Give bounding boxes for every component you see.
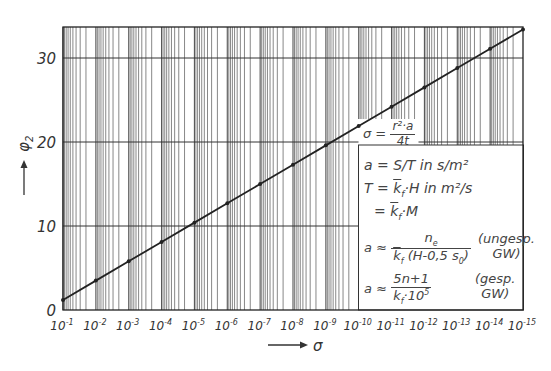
x-tick-label: 10-7 xyxy=(248,318,272,333)
data-point xyxy=(61,298,65,302)
y-tick-label: 20 xyxy=(37,134,56,152)
data-point xyxy=(390,105,394,109)
x-tick-label: 10-15 xyxy=(508,318,536,333)
unconfined-denominator: kf (H-0,5 s0) xyxy=(391,249,471,266)
sigma-fraction: r²·a 4t xyxy=(390,120,415,149)
confined-note-line1: (gesp. xyxy=(475,272,515,287)
data-point xyxy=(324,143,328,147)
unconfined-note-line1: (ungesp. xyxy=(478,232,535,247)
m-definition: = kf·M xyxy=(374,203,418,222)
unconfined-fraction: ne kf (H-0,5 s0) xyxy=(391,231,471,266)
x-tick-label: 10-1 xyxy=(50,318,73,333)
y-tick-label: 0 xyxy=(46,302,56,320)
data-point xyxy=(192,221,196,225)
x-tick-label: 10-10 xyxy=(344,318,372,333)
x-tick-label: 10-6 xyxy=(215,318,238,333)
data-point xyxy=(160,240,164,244)
confined-note: (gesp. GW) xyxy=(475,272,515,302)
y-tick-label: 30 xyxy=(37,50,56,68)
x-arrowhead-icon xyxy=(300,342,308,349)
sigma-denominator: 4t xyxy=(390,135,415,149)
y-axis-label: φ2 xyxy=(15,136,35,195)
x-tick-label: 10-5 xyxy=(182,318,205,333)
confined-numerator: 5n+1 xyxy=(391,272,431,288)
x-label-text: σ xyxy=(313,337,323,355)
data-point xyxy=(291,163,295,167)
sigma-numerator: r²·a xyxy=(390,120,415,135)
x-tick-label: 10-13 xyxy=(442,318,470,333)
sigma-formula: σ = r²·a 4t xyxy=(363,120,415,149)
x-axis-label: σ xyxy=(268,337,323,355)
x-tick-label: 10-12 xyxy=(409,318,437,333)
data-point xyxy=(455,66,459,70)
y-axis-ticks: 0102030 xyxy=(37,50,56,320)
x-tick-label: 10-9 xyxy=(313,318,336,333)
data-point xyxy=(258,182,262,186)
x-tick-label: 10-14 xyxy=(475,318,503,333)
data-point xyxy=(521,27,525,31)
y-label-text: φ2 xyxy=(15,136,35,152)
confined-fraction: 5n+1 kf·105 xyxy=(391,272,431,306)
sigma-lhs: σ = xyxy=(363,126,386,141)
a-approx: a ≈ xyxy=(364,281,387,296)
data-point xyxy=(357,124,361,128)
confined-denominator: kf·105 xyxy=(391,288,431,306)
x-tick-label: 10-3 xyxy=(116,318,139,333)
unconfined-note-line2: GW) xyxy=(478,247,535,262)
confined-note-line2: GW) xyxy=(475,287,515,302)
data-point xyxy=(225,201,229,205)
t-lhs: T = xyxy=(364,180,389,196)
t-definition: T = kf·H in m²/s xyxy=(364,180,472,199)
unconfined-note: (ungesp. GW) xyxy=(478,232,535,262)
y-tick-label: 10 xyxy=(37,218,56,236)
t-rest: ·H in m²/s xyxy=(404,180,472,196)
x-tick-label: 10-4 xyxy=(149,318,172,333)
data-point xyxy=(422,85,426,89)
x-tick-label: 10-11 xyxy=(376,318,404,333)
data-point xyxy=(94,279,98,283)
confined-formula: a ≈ 5n+1 kf·105 xyxy=(364,272,431,306)
x-tick-label: 10-2 xyxy=(83,318,106,333)
x-tick-label: 10-8 xyxy=(280,318,303,333)
unconfined-formula: a ≈ ne kf (H-0,5 s0) xyxy=(364,231,471,266)
unconfined-numerator: ne xyxy=(391,231,471,249)
a-approx: a ≈ xyxy=(364,240,387,255)
x-axis-ticks: 10-110-210-310-410-510-610-710-810-910-1… xyxy=(50,318,536,333)
m-lhs: = xyxy=(374,203,386,219)
data-point xyxy=(127,259,131,263)
data-point xyxy=(488,47,492,51)
m-rest: ·M xyxy=(401,203,418,219)
y-arrowhead-icon xyxy=(21,160,28,168)
a-definition: a = S/T in s/m² xyxy=(364,157,468,173)
